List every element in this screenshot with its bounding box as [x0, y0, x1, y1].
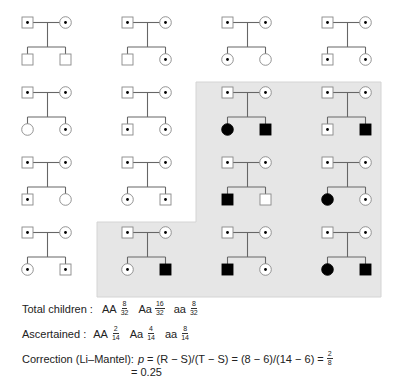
carrier-dot-icon	[264, 231, 267, 234]
fraction: 1632	[155, 300, 165, 317]
genotype-label: aa	[165, 328, 177, 340]
numerator: 16	[155, 300, 165, 309]
carrier-dot-icon	[364, 58, 367, 61]
pedigree-3-0	[17, 222, 77, 282]
carrier-dot-icon	[126, 128, 129, 131]
pedigree-1-3	[317, 82, 377, 142]
pedigree-2-3	[317, 152, 377, 212]
pedigree-0-3	[317, 12, 377, 72]
male-normal-icon	[22, 54, 33, 65]
numerator: 8	[191, 300, 197, 309]
carrier-dot-icon	[164, 128, 167, 131]
carrier-dot-icon	[226, 161, 229, 164]
carrier-dot-icon	[264, 161, 267, 164]
female-normal-icon	[22, 124, 34, 136]
correction-line: Correction (Li–Mantel): p = (R − S)/(T −…	[22, 350, 333, 367]
carrier-dot-icon	[64, 268, 67, 271]
carrier-dot-icon	[326, 91, 329, 94]
genotype-label: Aa	[130, 328, 143, 340]
carrier-dot-icon	[64, 128, 67, 131]
denominator: 14	[180, 334, 190, 342]
fraction: 814	[180, 325, 190, 342]
genotype-label: AA	[102, 303, 117, 315]
carrier-dot-icon	[26, 91, 29, 94]
numerator: 8	[122, 300, 128, 309]
carrier-dot-icon	[126, 231, 129, 234]
male-normal-icon	[260, 194, 271, 205]
carrier-dot-icon	[64, 161, 67, 164]
pedigree-0-2	[217, 12, 277, 72]
carrier-dot-icon	[126, 91, 129, 94]
pedigree-2-2	[217, 152, 277, 212]
p-symbol: p	[138, 353, 144, 365]
male-normal-icon	[60, 54, 71, 65]
male-affected-icon	[360, 264, 371, 275]
carrier-dot-icon	[364, 161, 367, 164]
carrier-dot-icon	[226, 231, 229, 234]
carrier-dot-icon	[126, 161, 129, 164]
carrier-dot-icon	[226, 58, 229, 61]
genotype-label: AA	[93, 328, 108, 340]
ascertained-label: Ascertained :	[22, 328, 86, 340]
male-affected-icon	[160, 264, 171, 275]
pedigree-0-0	[17, 12, 77, 72]
male-affected-icon	[260, 124, 271, 135]
correction-fraction: 28	[327, 350, 333, 367]
carrier-dot-icon	[164, 91, 167, 94]
numerator: 4	[148, 325, 154, 334]
carrier-dot-icon	[26, 231, 29, 234]
denominator: 32	[120, 309, 130, 317]
ascertained-line: Ascertained : AA214 Aa414 aa814	[22, 325, 190, 342]
genotype-label: aa	[174, 303, 186, 315]
carrier-dot-icon	[226, 21, 229, 24]
carrier-dot-icon	[364, 21, 367, 24]
female-affected-icon	[322, 194, 334, 206]
correction-formula: = (R − S)/(T − S) = (8 − 6)/(14 − 6) =	[147, 353, 324, 365]
male-affected-icon	[360, 124, 371, 135]
carrier-dot-icon	[164, 58, 167, 61]
carrier-dot-icon	[326, 161, 329, 164]
carrier-dot-icon	[326, 231, 329, 234]
pedigree-2-1	[117, 152, 177, 212]
pedigree-3-3	[317, 222, 377, 282]
carrier-dot-icon	[264, 91, 267, 94]
carrier-dot-icon	[264, 21, 267, 24]
carrier-dot-icon	[164, 231, 167, 234]
numerator: 2	[327, 350, 333, 359]
carrier-dot-icon	[164, 161, 167, 164]
female-affected-icon	[322, 264, 334, 276]
carrier-dot-icon	[64, 231, 67, 234]
pedigree-2-0	[17, 152, 77, 212]
carrier-dot-icon	[164, 21, 167, 24]
fraction: 832	[120, 300, 130, 317]
fraction: 414	[146, 325, 156, 342]
total-aa: aa832	[174, 300, 199, 317]
carrier-dot-icon	[26, 161, 29, 164]
carrier-dot-icon	[126, 198, 129, 201]
carrier-dot-icon	[126, 268, 129, 271]
ascertained-Aa: Aa414	[130, 325, 156, 342]
total-Aa: Aa1632	[138, 300, 164, 317]
carrier-dot-icon	[64, 91, 67, 94]
female-normal-icon	[260, 54, 272, 66]
carrier-dot-icon	[326, 128, 329, 131]
denominator: 8	[327, 359, 333, 367]
pedigree-1-0	[17, 82, 77, 142]
pedigree-0-1	[117, 12, 177, 72]
denominator: 32	[189, 309, 199, 317]
fraction: 832	[189, 300, 199, 317]
male-normal-icon	[122, 54, 133, 65]
female-normal-icon	[60, 194, 72, 206]
total-AA: AA832	[102, 300, 129, 317]
pedigree-1-1	[117, 82, 177, 142]
carrier-dot-icon	[226, 91, 229, 94]
carrier-dot-icon	[126, 21, 129, 24]
male-affected-icon	[222, 194, 233, 205]
carrier-dot-icon	[26, 268, 29, 271]
ascertained-aa: aa814	[165, 325, 190, 342]
pedigree-3-2	[217, 222, 277, 282]
total-children-label: Total children :	[22, 303, 93, 315]
female-affected-icon	[222, 124, 234, 136]
carrier-dot-icon	[364, 198, 367, 201]
fraction: 214	[111, 325, 121, 342]
